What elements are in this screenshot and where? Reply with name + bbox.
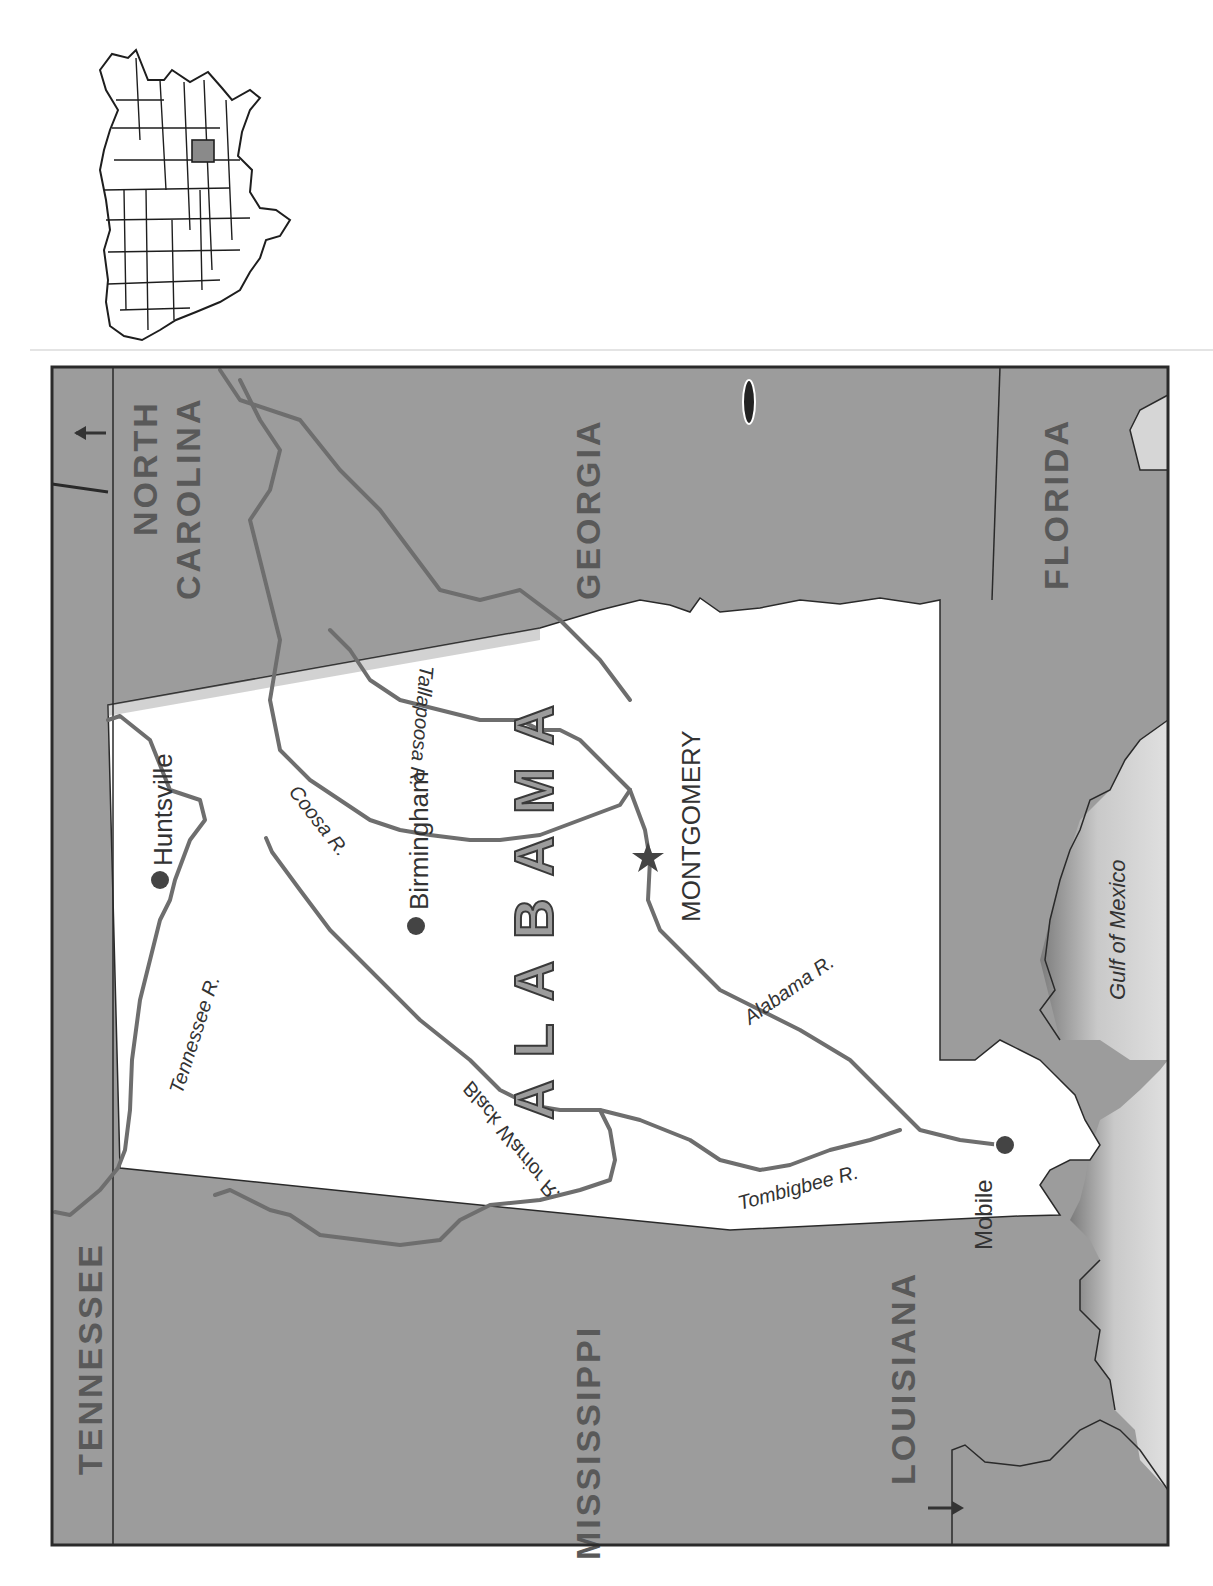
label-georgia: GEORGIA	[569, 418, 607, 600]
map-page: TENNESSEE NORTH CAROLINA GEORGIA FLORIDA…	[0, 0, 1213, 1586]
label-gulf-of-mexico: Gulf of Mexico	[1105, 859, 1130, 1000]
mobile-dot	[995, 1135, 1015, 1155]
label-louisiana: LOUISIANA	[884, 1271, 922, 1485]
label-carolina: CAROLINA	[169, 397, 207, 600]
label-north: NORTH	[126, 400, 164, 536]
huntsville-dot	[151, 871, 169, 889]
inset-highlight-alabama	[192, 140, 214, 162]
inset-us-map	[100, 50, 290, 340]
label-mississippi: MISSISSIPPI	[569, 1325, 607, 1560]
label-tennessee: TENNESSEE	[71, 1242, 109, 1475]
main-map: TENNESSEE NORTH CAROLINA GEORGIA FLORIDA…	[52, 352, 1168, 1560]
print-blemish	[743, 380, 755, 424]
label-montgomery: MONTGOMERY	[676, 730, 706, 922]
label-alabama: ALABAMA	[502, 683, 565, 1120]
label-birmingham: Birmingham	[404, 771, 434, 910]
label-huntsville: Huntsville	[148, 753, 178, 866]
label-mobile: Mobile	[970, 1179, 997, 1250]
birmingham-dot	[407, 917, 425, 935]
label-florida: FLORIDA	[1037, 418, 1075, 590]
inset-outline	[100, 50, 290, 340]
map-canvas: TENNESSEE NORTH CAROLINA GEORGIA FLORIDA…	[0, 0, 1213, 1586]
